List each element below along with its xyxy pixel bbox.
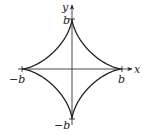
x-axis-label: x <box>134 63 141 76</box>
tick-label-y-pos: b <box>63 14 70 27</box>
astroid-diagram: y x b b −b −b <box>0 0 143 135</box>
tick-label-x-neg: −b <box>9 73 25 86</box>
tick-label-y-neg: −b <box>54 119 70 132</box>
y-axis-label: y <box>61 1 69 14</box>
tick-label-x-pos: b <box>118 73 125 86</box>
